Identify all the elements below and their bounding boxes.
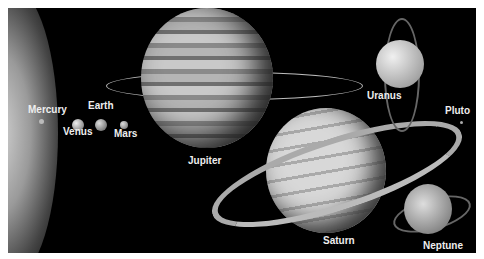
earth [95,119,107,131]
jupiter [141,8,273,148]
label-uranus: Uranus [367,90,401,101]
label-pluto: Pluto [445,105,470,116]
mercury [39,119,44,124]
label-saturn: Saturn [323,235,355,246]
label-mars: Mars [114,128,137,139]
label-venus: Venus [63,126,92,137]
label-mercury: Mercury [28,104,67,115]
space-background: Mercury Venus Earth Mars Jupiter Saturn … [8,8,476,253]
pluto [460,121,463,124]
sun [8,8,58,253]
uranus [376,40,424,88]
label-earth: Earth [88,100,114,111]
label-neptune: Neptune [423,240,463,251]
label-jupiter: Jupiter [188,155,221,166]
neptune [404,184,452,234]
